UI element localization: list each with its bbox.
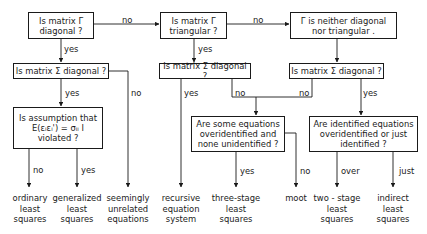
outcome-moot: moot: [282, 193, 310, 204]
outcome-text: squares: [210, 214, 262, 225]
edge-label-yes: yes: [363, 88, 377, 98]
node-text: identified ?: [340, 139, 387, 149]
edge-label-yes: yes: [81, 165, 95, 175]
edge-label-no: no: [33, 165, 43, 175]
outcome-text: system: [158, 214, 204, 225]
node-text: Are some equations: [196, 119, 280, 129]
edge-label-yes: yes: [64, 44, 78, 54]
outcome-indirect-least-squares: indirect least squares: [372, 193, 414, 225]
node-text: Is assumption that: [19, 113, 97, 123]
node-text: E(εᵢεᵢ') = σᵢᵢ I: [32, 123, 84, 133]
edge-label-yes: yes: [240, 166, 254, 176]
node-gamma-diagonal: Is matrix Γ diagonal ?: [28, 12, 94, 39]
node-text: nor triangular .: [312, 26, 375, 36]
outcome-text: recursive: [158, 193, 204, 204]
outcome-two-stage-least-squares: two - stage least squares: [313, 193, 361, 225]
outcome-text: three-stage: [210, 193, 262, 204]
edge-label-just: just: [399, 166, 414, 176]
node-sigma-diagonal-right: Is matrix Σ diagonal ?: [289, 63, 384, 79]
outcome-text: ordinary: [9, 193, 51, 204]
node-text: none unidentified ?: [198, 139, 279, 149]
outcome-text: least: [52, 204, 102, 215]
outcome-text: squares: [313, 214, 361, 225]
outcome-text: two - stage: [313, 193, 361, 204]
edge-label-yes: yes: [198, 44, 212, 54]
node-text: overidentified or just: [320, 129, 407, 139]
node-text: Is matrix Γ: [39, 16, 83, 26]
outcome-text: least: [313, 204, 361, 215]
node-text: diagonal ?: [39, 26, 82, 36]
node-identified-over-just: Are identified equations overidentified …: [309, 116, 418, 152]
node-text: violated ?: [38, 133, 79, 143]
node-gamma-triangular: Is matrix Γ triangular ?: [160, 12, 227, 39]
outcome-text: unrelated: [104, 204, 152, 215]
node-text: triangular ?: [169, 26, 217, 36]
edge-label-no: no: [253, 15, 263, 25]
outcome-text: least: [372, 204, 414, 215]
edge-label-no: no: [300, 166, 310, 176]
node-sigma-diagonal-left: Is matrix Σ diagonal ?: [13, 63, 109, 79]
node-text: Are identified equations: [313, 119, 413, 129]
edge-label-yes: yes: [65, 88, 79, 98]
node-assumption: Is assumption that E(εᵢεᵢ') = σᵢᵢ I viol…: [13, 107, 103, 149]
node-text: overidentified and: [200, 129, 277, 139]
outcome-text: squares: [52, 214, 102, 225]
node-sigma-diagonal-mid: Is matrix Σ diagonal ?: [159, 63, 251, 79]
edge-label-no: no: [131, 88, 141, 98]
outcome-text: squares: [9, 214, 51, 225]
edge-label-no: no: [235, 88, 245, 98]
outcome-text: equation: [158, 204, 204, 215]
outcome-text: least: [9, 204, 51, 215]
outcome-text: indirect: [372, 193, 414, 204]
outcome-text: seemingly: [104, 193, 152, 204]
edge-label-over: over: [341, 166, 360, 176]
outcome-text: generalized: [52, 193, 102, 204]
outcome-recursive-equation-system: recursive equation system: [158, 193, 204, 225]
edge-label-yes: yes: [184, 88, 198, 98]
outcome-ordinary-least-squares: ordinary least squares: [9, 193, 51, 225]
outcome-text: squares: [372, 214, 414, 225]
node-text: Γ is neither diagonal: [301, 16, 386, 26]
outcome-generalized-least-squares: generalized least squares: [52, 193, 102, 225]
node-gamma-neither: Γ is neither diagonal nor triangular .: [290, 12, 397, 39]
edge-label-no: no: [122, 15, 132, 25]
node-text: Is matrix Γ: [171, 16, 215, 26]
node-text: Is matrix Σ diagonal ?: [291, 66, 382, 76]
outcome-three-stage-least-squares: three-stage least squares: [210, 193, 262, 225]
outcome-text: least: [210, 204, 262, 215]
edge-label-no: no: [299, 88, 309, 98]
node-some-overidentified: Are some equations overidentified and no…: [191, 116, 285, 152]
node-text: Is matrix Σ diagonal ?: [160, 61, 250, 81]
outcome-seemingly-unrelated-equations: seemingly unrelated equations: [104, 193, 152, 225]
node-text: Is matrix Σ diagonal ?: [16, 66, 107, 76]
outcome-text: moot: [282, 193, 310, 204]
outcome-text: equations: [104, 214, 152, 225]
